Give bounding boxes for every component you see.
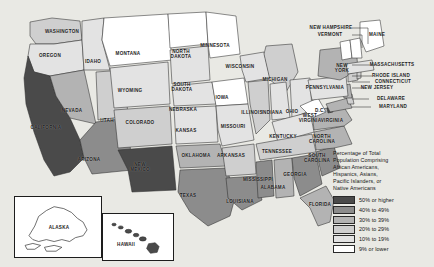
state-mt — [102, 14, 172, 66]
state-mn — [206, 12, 240, 58]
state-nh — [350, 38, 362, 58]
state-ne — [172, 82, 216, 106]
legend-row: 50% or higher — [333, 196, 434, 205]
state-sd — [170, 46, 210, 84]
legend-row: 40% to 49% — [333, 205, 434, 214]
legend-label: 40% to 49% — [359, 207, 389, 213]
state-me — [360, 20, 384, 52]
state-or — [28, 40, 84, 76]
state-ia — [212, 78, 248, 106]
state-pa — [308, 76, 348, 100]
legend-swatch — [333, 225, 355, 233]
legend-row: 20% to 29% — [333, 225, 434, 234]
state-tx — [178, 168, 236, 226]
legend-label: 20% to 29% — [359, 226, 389, 232]
state-wy — [110, 62, 170, 108]
state-wa — [30, 18, 82, 44]
legend-entries: 50% or higher40% to 49%30% to 39%20% to … — [333, 196, 434, 254]
state-ms — [256, 160, 274, 198]
legend-label: 30% to 39% — [359, 217, 389, 223]
legend-row: 30% to 39% — [333, 215, 434, 224]
state-ok — [176, 144, 226, 168]
legend-label: 10% to 19% — [359, 236, 389, 242]
state-mo — [216, 104, 254, 146]
state-ar — [222, 144, 256, 176]
hawaii-inset: HAWAII — [102, 213, 174, 261]
state-ks — [174, 106, 218, 144]
legend-swatch — [333, 235, 355, 243]
legend-swatch — [333, 216, 355, 224]
us-choropleth-map: WASHINGTONOREGONIDAHOCALIFORNIANEVADAUTA… — [0, 0, 434, 267]
state-nc — [314, 126, 352, 150]
state-al — [274, 158, 294, 198]
map-legend: Percentage of Total Population Comprisin… — [333, 150, 434, 267]
legend-swatch — [333, 206, 355, 214]
legend-swatch — [333, 196, 355, 204]
legend-row: 9% or lower — [333, 244, 434, 253]
legend-row: 10% to 19% — [333, 235, 434, 244]
legend-label: 9% or lower — [359, 246, 389, 252]
legend-label: 50% or higher — [359, 197, 394, 203]
state-co — [114, 106, 172, 148]
legend-swatch — [333, 245, 355, 253]
legend-title: Percentage of Total Population Comprisin… — [333, 150, 434, 193]
state-nd — [168, 12, 208, 48]
alaska-inset: ALASKA — [14, 196, 102, 258]
